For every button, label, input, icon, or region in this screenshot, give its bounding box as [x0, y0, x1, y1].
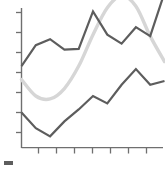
chart-legend	[4, 158, 62, 167]
y-axis-ticks	[16, 13, 22, 133]
line-chart	[0, 0, 165, 169]
axes-group	[22, 8, 164, 148]
series-line-lower-dark	[22, 69, 165, 136]
legend-swatch-icon	[4, 161, 13, 165]
chart-plot-area	[0, 0, 165, 169]
x-axis-ticks	[39, 148, 147, 154]
series-line-smooth-light	[22, 0, 165, 100]
